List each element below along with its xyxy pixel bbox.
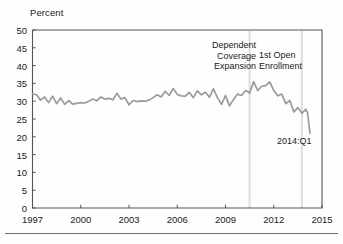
data-line-uninsured-rate (33, 82, 310, 134)
annotation-line-1: Dependent (188, 40, 256, 51)
annotation-line-2: Coverage (188, 51, 256, 62)
x-tick-label-1: 2000 (70, 214, 91, 225)
y-tick-label-2: 10 (5, 167, 27, 178)
x-tick-label-6: 2015 (311, 214, 332, 225)
y-tick-label-8: 40 (5, 60, 27, 71)
chart-svg (0, 0, 343, 244)
y-tick-label-10: 50 (5, 25, 27, 36)
y-tick-label-3: 15 (5, 149, 27, 160)
x-tick-label-2: 2003 (118, 214, 139, 225)
annotation-dependent-coverage-expansion: Dependent Coverage Expansion (188, 40, 256, 72)
annotation-line-1: 1st Open (259, 50, 321, 61)
x-tick-label-5: 2012 (263, 214, 284, 225)
y-tick-label-5: 25 (5, 114, 27, 125)
end-point-label: 2014:Q1 (277, 136, 312, 146)
x-tick-label-0: 1997 (22, 214, 43, 225)
y-tick-label-9: 45 (5, 42, 27, 53)
y-tick-label-6: 30 (5, 96, 27, 107)
footer-divider (5, 233, 338, 234)
annotation-line-2: Enrollment (259, 61, 321, 72)
y-tick-label-4: 20 (5, 131, 27, 142)
annotation-line-3: Expansion (188, 61, 256, 72)
y-tick-label-1: 5 (5, 185, 27, 196)
y-tick-label-7: 35 (5, 78, 27, 89)
annotation-first-open-enrollment: 1st Open Enrollment (259, 50, 321, 71)
y-tick-label-0: 0 (5, 203, 27, 214)
figure-container: Percent 05101520253035404550 19972000200… (0, 0, 343, 244)
x-tick-label-4: 2009 (215, 214, 236, 225)
x-tick-label-3: 2006 (167, 214, 188, 225)
